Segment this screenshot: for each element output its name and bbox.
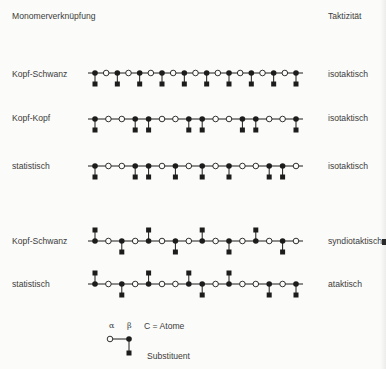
alpha-carbon-atom — [170, 70, 176, 76]
alpha-carbon-atom — [213, 116, 219, 122]
substituent-square — [133, 128, 138, 133]
alpha-carbon-atom — [266, 116, 272, 122]
alpha-carbon-atom — [159, 163, 165, 169]
alpha-carbon-atom — [126, 70, 132, 76]
alpha-carbon-atom — [103, 70, 109, 76]
beta-carbon-atom — [249, 70, 255, 76]
beta-carbon-atom — [146, 163, 152, 169]
alpha-carbon-atom — [213, 163, 219, 169]
substituent-square — [146, 228, 151, 233]
alpha-carbon-atom — [132, 238, 138, 244]
beta-carbon-atom — [146, 116, 152, 122]
beta-carbon-atom — [92, 70, 98, 76]
alpha-carbon-atom — [193, 70, 199, 76]
substituent-square — [182, 82, 187, 87]
beta-carbon-atom — [186, 281, 192, 287]
alpha-carbon-atom — [159, 281, 165, 287]
legend-atoms-label: C = Atome — [144, 321, 184, 331]
beta-carbon-atom — [119, 238, 125, 244]
legend-beta-label: β — [127, 321, 132, 330]
substituent-square — [115, 82, 120, 87]
legend-beta-atom — [126, 336, 132, 342]
substituent-square — [240, 128, 245, 133]
beta-carbon-atom — [226, 238, 232, 244]
beta-carbon-atom — [226, 281, 232, 287]
alpha-carbon-atom — [293, 163, 299, 169]
alpha-carbon-atom — [237, 70, 243, 76]
beta-carbon-atom — [146, 238, 152, 244]
beta-carbon-atom — [137, 70, 143, 76]
alpha-carbon-atom — [240, 281, 246, 287]
beta-carbon-atom — [146, 281, 152, 287]
substituent-square — [200, 128, 205, 133]
beta-carbon-atom — [271, 70, 277, 76]
substituent-square — [294, 82, 299, 87]
alpha-carbon-atom — [132, 281, 138, 287]
substituent-square — [227, 175, 232, 180]
legend-substituent-square — [127, 351, 132, 356]
alpha-carbon-atom — [282, 70, 288, 76]
substituent-square — [93, 271, 98, 276]
substituent-square — [173, 250, 178, 255]
beta-carbon-atom — [199, 281, 205, 287]
alpha-carbon-atom — [280, 281, 286, 287]
substituent-square — [119, 250, 124, 255]
substituent-square — [146, 175, 151, 180]
beta-carbon-atom — [92, 238, 98, 244]
beta-carbon-atom — [132, 116, 138, 122]
beta-carbon-atom — [280, 163, 286, 169]
substituent-square — [93, 228, 98, 233]
alpha-carbon-atom — [173, 281, 179, 287]
alpha-carbon-atom — [119, 116, 125, 122]
substituent-square — [146, 128, 151, 133]
alpha-carbon-atom — [159, 238, 165, 244]
substituent-square — [186, 271, 191, 276]
beta-carbon-atom — [199, 116, 205, 122]
alpha-carbon-atom — [213, 281, 219, 287]
substituent-square — [249, 82, 254, 87]
beta-carbon-atom — [240, 116, 246, 122]
legend-alpha-label: α — [109, 321, 114, 330]
substituent-square — [294, 128, 299, 133]
alpha-carbon-atom — [215, 70, 221, 76]
substituent-square — [186, 128, 191, 133]
substituent-square — [227, 271, 232, 276]
alpha-carbon-atom — [240, 163, 246, 169]
beta-carbon-atom — [204, 70, 210, 76]
beta-carbon-atom — [293, 70, 299, 76]
alpha-carbon-atom — [226, 116, 232, 122]
substituent-square — [280, 250, 285, 255]
polymer-chains-diagram — [0, 0, 386, 369]
substituent-square — [200, 228, 205, 233]
alpha-carbon-atom — [240, 238, 246, 244]
substituent-square — [200, 175, 205, 180]
substituent-square — [267, 175, 272, 180]
beta-carbon-atom — [159, 70, 165, 76]
alpha-carbon-atom — [106, 163, 112, 169]
substituent-square — [253, 228, 258, 233]
alpha-carbon-atom — [106, 238, 112, 244]
beta-carbon-atom — [253, 238, 259, 244]
alpha-carbon-atom — [266, 238, 272, 244]
alpha-carbon-atom — [293, 238, 299, 244]
alpha-carbon-atom — [186, 238, 192, 244]
alpha-carbon-atom — [106, 281, 112, 287]
beta-carbon-atom — [92, 163, 98, 169]
substituent-square — [93, 175, 98, 180]
substituent-square — [119, 293, 124, 298]
alpha-carbon-atom — [253, 163, 259, 169]
beta-carbon-atom — [173, 238, 179, 244]
beta-carbon-atom — [173, 163, 179, 169]
beta-carbon-atom — [182, 70, 188, 76]
legend-substituent-label: Substituent — [147, 351, 190, 361]
substituent-square — [133, 175, 138, 180]
alpha-carbon-atom — [213, 238, 219, 244]
beta-carbon-atom — [226, 163, 232, 169]
substituent-square — [160, 82, 165, 87]
beta-carbon-atom — [199, 238, 205, 244]
beta-carbon-atom — [115, 70, 121, 76]
alpha-carbon-atom — [280, 116, 286, 122]
beta-carbon-atom — [293, 281, 299, 287]
alpha-carbon-atom — [186, 163, 192, 169]
substituent-square — [267, 293, 272, 298]
